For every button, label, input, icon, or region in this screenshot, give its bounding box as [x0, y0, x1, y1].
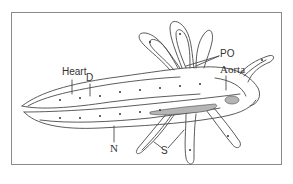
diagram-figure: Heart D PO Aorta N S	[0, 0, 293, 184]
label-aorta: Aorta	[220, 64, 245, 75]
ventral-outline	[24, 100, 256, 128]
label-n: N	[110, 143, 118, 154]
label-po: PO	[220, 49, 234, 59]
ganglion-shade	[225, 96, 239, 104]
head-inner	[215, 78, 246, 96]
label-d: D	[86, 73, 93, 83]
label-s: S	[161, 146, 168, 156]
label-heart: Heart	[62, 67, 86, 77]
antenna-inner	[244, 60, 266, 76]
loop-mid-inner	[176, 30, 190, 68]
po-pointer-1	[186, 56, 219, 66]
s-pointer-2	[168, 130, 184, 148]
circulatory-diagram	[0, 0, 293, 184]
dorsal-lower	[22, 94, 200, 108]
leg-1	[136, 112, 176, 154]
